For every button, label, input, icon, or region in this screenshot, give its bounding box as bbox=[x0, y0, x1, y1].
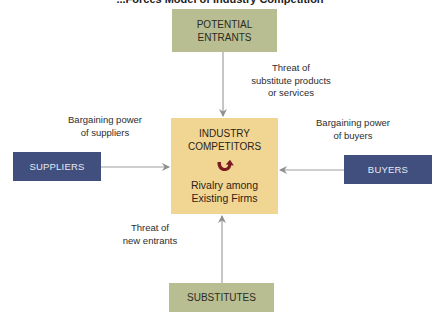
node-sublabel-line: Existing Firms bbox=[192, 192, 258, 205]
node-label-line: ENTRANTS bbox=[198, 31, 252, 44]
node-label-line: COMPETITORS bbox=[188, 140, 261, 153]
rivalry-circular-arrow-icon bbox=[215, 158, 235, 174]
node-buyers: BUYERS bbox=[344, 155, 432, 184]
node-suppliers: SUPPLIERS bbox=[13, 152, 101, 181]
node-industry-competitors: INDUSTRY COMPETITORS Rivalry among Exist… bbox=[171, 118, 278, 214]
node-label: BUYERS bbox=[368, 164, 408, 175]
node-potential-entrants: POTENTIAL ENTRANTS bbox=[172, 9, 277, 52]
label-line: of suppliers bbox=[48, 127, 162, 140]
edge-label-threat-substitutes: Threat of substitute products or service… bbox=[232, 62, 350, 100]
label-line: Threat of bbox=[232, 62, 350, 75]
node-label: SUPPLIERS bbox=[29, 161, 84, 172]
node-sublabel-line: Rivalry among bbox=[191, 179, 258, 192]
edge-label-bargaining-suppliers: Bargaining power of suppliers bbox=[48, 114, 162, 139]
label-line: of buyers bbox=[296, 130, 410, 143]
label-line: new entrants bbox=[110, 235, 190, 248]
edge-label-threat-new-entrants: Threat of new entrants bbox=[110, 222, 190, 247]
label-line: or services bbox=[232, 87, 350, 100]
edge-label-bargaining-buyers: Bargaining power of buyers bbox=[296, 117, 410, 142]
node-substitutes: SUBSTITUTES bbox=[169, 283, 274, 312]
node-label-line: INDUSTRY bbox=[199, 127, 250, 140]
label-line: Bargaining power bbox=[296, 117, 410, 130]
node-label-line: POTENTIAL bbox=[197, 18, 253, 31]
label-line: Bargaining power bbox=[48, 114, 162, 127]
node-label: SUBSTITUTES bbox=[187, 291, 256, 304]
label-line: substitute products bbox=[232, 75, 350, 88]
label-line: Threat of bbox=[110, 222, 190, 235]
